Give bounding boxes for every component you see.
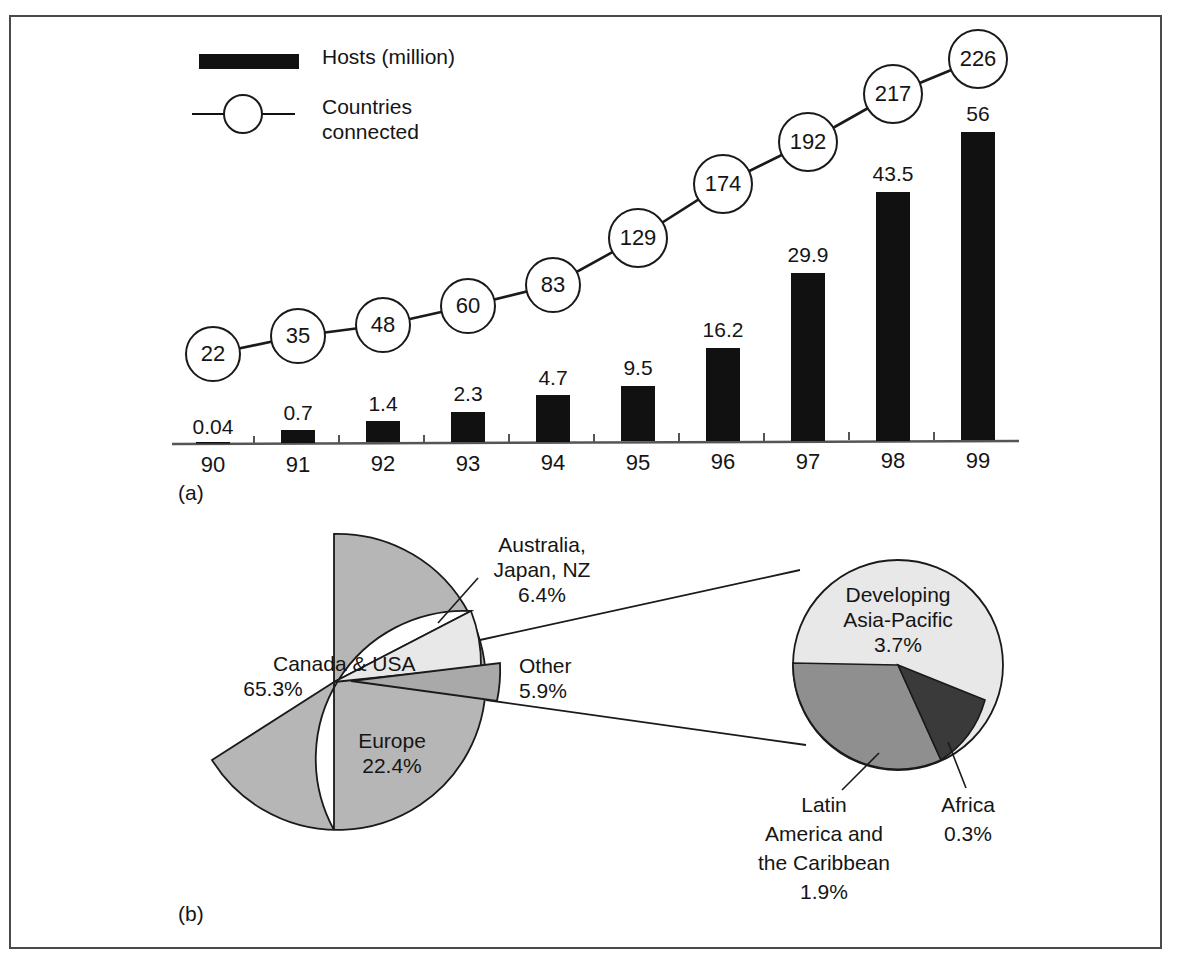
- line-value-91: 35: [286, 323, 310, 349]
- bar-value-90: 0.04: [193, 415, 234, 440]
- bar-value-93: 2.3: [453, 382, 482, 407]
- pie-label-latin-america-line1: Latin: [801, 793, 847, 818]
- xtick-98: 98: [881, 448, 905, 474]
- pie-label-europe: Europe: [358, 729, 426, 754]
- pie-value-africa: 0.3%: [944, 822, 992, 847]
- line-value-98: 217: [875, 81, 912, 107]
- bar-value-97: 29.9: [788, 243, 829, 268]
- pie-value-europe: 22.4%: [362, 754, 422, 779]
- bar-value-96: 16.2: [703, 318, 744, 343]
- figure-root: Hosts (million) Countries connected 22 3…: [0, 0, 1177, 975]
- bar-93: [451, 412, 485, 442]
- xtick-90: 90: [201, 452, 225, 478]
- bar-value-91: 0.7: [283, 401, 312, 426]
- bar-99: [961, 132, 995, 440]
- legend-label-countries-line2: connected: [322, 120, 419, 145]
- bar-value-95: 9.5: [623, 356, 652, 381]
- line-value-92: 48: [371, 312, 395, 338]
- pie-label-australia-japan-nz-line1: Australia,: [498, 533, 586, 558]
- pie-label-latin-america-line3: the Caribbean: [758, 851, 890, 876]
- line-value-93: 60: [456, 293, 480, 319]
- legend-bar-swatch: [199, 54, 299, 69]
- pie-value-other: 5.9%: [519, 679, 567, 704]
- pie-label-latin-america-line2: America and: [765, 822, 883, 847]
- line-value-94: 83: [541, 272, 565, 298]
- bar-95: [621, 386, 655, 441]
- xtick-99: 99: [966, 448, 990, 474]
- line-value-96: 174: [705, 171, 742, 197]
- bar-value-94: 4.7: [538, 366, 567, 391]
- pie-label-developing-asia-pacific-line1: Developing: [845, 583, 950, 608]
- bar-92: [366, 421, 400, 442]
- pie-label-africa: Africa: [941, 793, 995, 818]
- bar-96: [706, 348, 740, 441]
- pie-value-latin-america: 1.9%: [800, 880, 848, 905]
- pie-value-australia-japan-nz: 6.4%: [518, 583, 566, 608]
- panel-label-b: (b): [178, 902, 204, 927]
- bar-91: [281, 430, 315, 443]
- xtick-95: 95: [626, 450, 650, 476]
- bar-value-98: 43.5: [873, 162, 914, 187]
- xtick-91: 91: [286, 452, 310, 478]
- line-value-90: 22: [201, 341, 225, 367]
- panel-label-a: (a): [178, 481, 204, 506]
- legend-line-marker: [192, 95, 295, 133]
- figure-graphics: [0, 0, 1177, 975]
- xtick-94: 94: [541, 450, 565, 476]
- bar-value-92: 1.4: [368, 392, 397, 417]
- line-value-99: 226: [960, 46, 997, 72]
- xtick-92: 92: [371, 451, 395, 477]
- legend-label-countries-line1: Countries: [322, 95, 412, 120]
- bar-94: [536, 395, 570, 442]
- pie-value-canada-usa: 65.3%: [243, 677, 303, 702]
- pie-label-canada-usa: Canada & USA: [273, 652, 415, 677]
- pie-label-australia-japan-nz-line2: Japan, NZ: [494, 558, 591, 583]
- xtick-97: 97: [796, 449, 820, 475]
- xtick-93: 93: [456, 451, 480, 477]
- bar-value-99: 56: [966, 102, 989, 127]
- legend-label-hosts: Hosts (million): [322, 45, 455, 70]
- pie-label-developing-asia-pacific-line2: Asia-Pacific: [843, 608, 953, 633]
- xtick-96: 96: [711, 449, 735, 475]
- bar-90: [196, 442, 230, 444]
- pie-label-other: Other: [519, 654, 572, 679]
- line-value-97: 192: [790, 129, 827, 155]
- pie-value-developing-asia-pacific: 3.7%: [874, 633, 922, 658]
- bar-97: [791, 273, 825, 441]
- line-value-95: 129: [620, 225, 657, 251]
- bar-98: [876, 192, 910, 441]
